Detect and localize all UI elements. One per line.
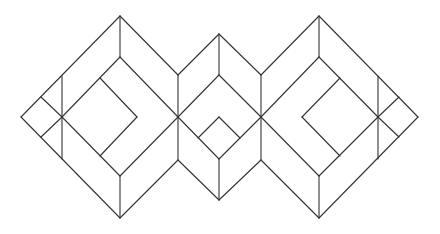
- pattern-line: [178, 75, 219, 117]
- pattern-line: [219, 160, 261, 200]
- pattern-line: [319, 57, 378, 117]
- pattern-line: [302, 78, 340, 117]
- pattern-line: [319, 16, 418, 117]
- pattern-line: [378, 117, 399, 137]
- pattern-line: [178, 34, 219, 75]
- pattern-line: [219, 34, 261, 75]
- pattern-line: [198, 117, 219, 138]
- pattern-line: [100, 117, 137, 156]
- pattern-line: [120, 160, 178, 218]
- pattern-line: [378, 97, 399, 117]
- pattern-line: [219, 117, 240, 138]
- pattern-line: [178, 160, 219, 200]
- geometric-pattern: [0, 0, 440, 234]
- pattern-line: [100, 78, 137, 117]
- pattern-line: [21, 117, 120, 218]
- pattern-line: [21, 16, 120, 117]
- pattern-line: [41, 117, 62, 137]
- pattern-line: [302, 117, 340, 156]
- pattern-line: [319, 117, 418, 218]
- pattern-line: [261, 160, 319, 218]
- pattern-line: [41, 97, 62, 117]
- pattern-line: [219, 75, 261, 117]
